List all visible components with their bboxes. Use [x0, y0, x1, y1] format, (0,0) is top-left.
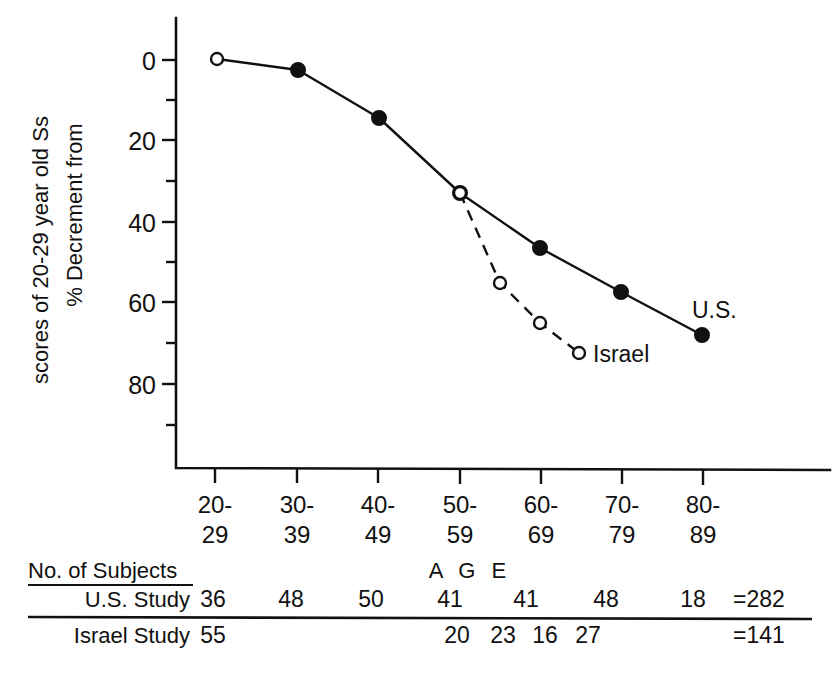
- y-axis-label: scores of 20-29 year old Ss % Decrement …: [28, 116, 87, 384]
- table-row-israel-cell-1: 20: [444, 622, 470, 648]
- table-row-us-total: =282: [733, 586, 785, 612]
- y-axis-label-line2: scores of 20-29 year old Ss: [28, 116, 53, 384]
- y-axis-label-line1: % Decrement from: [62, 123, 87, 306]
- series-israel-label: Israel: [593, 341, 649, 367]
- line-chart: scores of 20-29 year old Ss % Decrement …: [0, 0, 839, 673]
- table-row-us-cell-3: 41: [437, 586, 463, 612]
- series-us-point-20-29: [211, 53, 223, 65]
- x-tick-label-50-59-top: 50-: [443, 491, 478, 518]
- series-us: U.S.: [211, 53, 737, 342]
- x-tick-label-60-69-top: 60-: [524, 491, 559, 518]
- table-row-israel-cell-4: 27: [575, 622, 601, 648]
- table-row-israel: Israel Study 55 20 23 16 27 =141: [74, 622, 785, 648]
- table-row-israel-cell-0: 55: [200, 622, 226, 648]
- x-tick-label-40-49-top: 40-: [361, 491, 396, 518]
- x-tick-label-30-39-top: 30-: [280, 491, 315, 518]
- x-axis-tick-labels: 20- 29 30- 39 40- 49 50- 59 60- 69 70- 7…: [198, 491, 721, 548]
- y-tick-label-0: 0: [142, 47, 156, 75]
- table-row-israel-label: Israel Study: [74, 623, 190, 648]
- axis-spines: [176, 18, 830, 470]
- y-axis-major-ticks: [162, 60, 176, 384]
- table-row-us-cell-2: 50: [358, 586, 384, 612]
- series-us-point-30-39: [291, 63, 305, 77]
- subjects-table-divider: [28, 617, 812, 619]
- series-us-point-60-69: [533, 241, 547, 255]
- table-row-us-cell-4: 41: [513, 586, 539, 612]
- x-tick-label-50-59-bottom: 59: [447, 521, 474, 548]
- series-us-point-70-79: [614, 285, 628, 299]
- series-us-point-80-89: [695, 328, 709, 342]
- x-tick-label-20-29-bottom: 29: [202, 521, 229, 548]
- table-row-us: U.S. Study 36 48 50 41 41 48 18 =282: [85, 586, 785, 612]
- series-us-label: U.S.: [692, 297, 737, 323]
- y-axis-tick-labels: 0 20 40 60 80: [128, 47, 156, 399]
- x-tick-label-70-79-bottom: 79: [609, 521, 636, 548]
- series-israel-point-1: [454, 187, 466, 199]
- series-israel-line: [460, 193, 579, 353]
- table-row-israel-total: =141: [733, 622, 785, 648]
- series-israel: Israel: [454, 187, 649, 367]
- series-us-point-40-49: [372, 111, 386, 125]
- series-israel-point-3: [534, 317, 546, 329]
- y-tick-label-40: 40: [128, 209, 156, 237]
- table-row-israel-cell-2: 23: [490, 622, 516, 648]
- table-row-us-cell-0: 36: [200, 586, 226, 612]
- subjects-table: No. of Subjects U.S. Study 36 48 50 41 4…: [28, 558, 812, 648]
- table-row-us-cell-1: 48: [278, 586, 304, 612]
- x-tick-label-60-69-bottom: 69: [528, 521, 555, 548]
- series-israel-point-4: [573, 347, 585, 359]
- x-tick-label-70-79-top: 70-: [605, 491, 640, 518]
- table-row-israel-cell-3: 16: [532, 622, 558, 648]
- y-tick-label-80: 80: [128, 371, 156, 399]
- y-tick-label-60: 60: [128, 289, 156, 317]
- x-axis-title: A G E: [429, 558, 511, 583]
- series-israel-point-2: [494, 277, 506, 289]
- y-axis-minor-ticks: [166, 100, 176, 425]
- x-tick-label-30-39-bottom: 39: [284, 521, 311, 548]
- subjects-table-caption: No. of Subjects: [28, 558, 177, 583]
- x-tick-label-40-49-bottom: 49: [365, 521, 392, 548]
- x-tick-label-20-29-top: 20-: [198, 491, 233, 518]
- table-row-us-label: U.S. Study: [85, 587, 190, 612]
- table-row-us-cell-6: 18: [680, 586, 706, 612]
- y-tick-label-20: 20: [128, 127, 156, 155]
- table-row-us-cell-5: 48: [593, 586, 619, 612]
- x-tick-label-80-89-bottom: 89: [690, 521, 717, 548]
- x-tick-label-80-89-top: 80-: [686, 491, 721, 518]
- figure-container: scores of 20-29 year old Ss % Decrement …: [0, 0, 839, 673]
